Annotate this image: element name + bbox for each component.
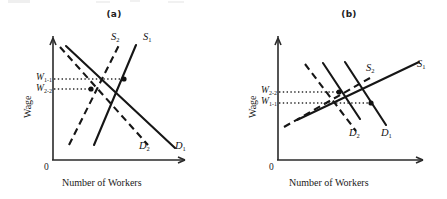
panel-a-y-axis-label: Wage [22,95,33,118]
panel-a-label-d2-base: D [139,140,147,151]
curve-s2-a [69,45,119,145]
panel-a: (a) Wage Number of Workers 0 [0,0,224,199]
panel-b-label-s1-sub: 1 [422,63,425,70]
panel-b-x-axis-label: Number of Workers [289,177,369,188]
panel-a-label-s1-sub: 1 [148,36,151,43]
panel-b-label-w22: W2-2 [237,85,277,95]
panel-a-label-d1-base: D [175,140,183,151]
equilibrium-2-2-a [88,86,93,91]
panel-b-label-d2-sub: 2 [357,132,360,139]
curve-s1-b [297,62,419,120]
panel-a-label-d1: D1 [175,140,186,151]
panel-a-label-s2-sub: 2 [116,36,119,43]
panel-b-label-w11-sub: 1-1 [269,101,277,107]
panel-b-label-s2-sub: 2 [371,67,374,74]
panel-b-label-d2: D2 [349,127,360,138]
panel-a-origin-label: 0 [44,162,49,172]
panel-b-label-w11-base: W [261,96,269,106]
panel-b-label-s1: S1 [417,58,426,69]
panel-a-label-w22: W2-2 [12,83,52,93]
panel-b-axes [275,36,423,163]
panel-a-label-s2: S2 [111,31,120,42]
panel-b: (b) Wage Number of Workers [223,0,447,199]
equilibrium-1-1-b [368,100,373,105]
panel-a-label-d1-sub: 1 [183,145,186,152]
supply-demand-figure: (a) Wage Number of Workers 0 [0,0,447,199]
panel-b-label-d1-base: D [381,127,389,138]
panel-b-origin-label: 0 [269,162,274,172]
panel-a-label-w22-base: W [36,83,44,93]
panel-a-label-d2: D2 [139,140,150,151]
equilibrium-1-1-a [121,76,126,81]
curve-d1-a [66,46,175,148]
panel-a-label-s1: S1 [143,31,152,42]
panel-a-label-w11-base: W [36,72,44,82]
equilibrium-2-2-b [336,89,341,94]
panel-b-label-s2: S2 [366,62,375,73]
panel-a-x-axis-label: Number of Workers [62,177,142,188]
panel-a-label-d2-sub: 2 [147,145,150,152]
panel-a-label-w11: W1-1 [12,72,52,82]
curve-d2-a [60,47,148,145]
panel-b-label-w22-base: W [261,85,269,95]
panel-b-label-d1: D1 [381,127,392,138]
panel-b-label-w11: W1-1 [237,96,277,106]
panel-b-label-d1-sub: 1 [389,132,392,139]
panel-a-label-w22-sub: 2-2 [44,88,52,94]
curve-s1-a [94,45,136,145]
panel-a-plot [0,0,224,199]
panel-b-label-d2-base: D [349,127,357,138]
